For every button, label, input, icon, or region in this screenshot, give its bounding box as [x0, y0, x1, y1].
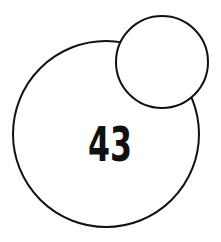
large-circle-label: 43 — [88, 116, 132, 172]
circle-diagram: 43 — [0, 0, 221, 242]
small-circle — [116, 16, 208, 108]
